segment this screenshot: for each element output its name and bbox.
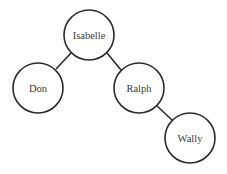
node-label-don: Don bbox=[29, 83, 48, 94]
edge-isabelle-ralph bbox=[107, 53, 121, 70]
node-label-ralph: Ralph bbox=[126, 83, 152, 94]
tree-diagram: Isabelle Don Ralph Wally bbox=[0, 0, 227, 174]
edge-ralph-wally bbox=[157, 106, 172, 120]
edge-isabelle-don bbox=[56, 53, 71, 69]
node-label-isabelle: Isabelle bbox=[73, 30, 106, 41]
node-label-wally: Wally bbox=[178, 133, 204, 144]
